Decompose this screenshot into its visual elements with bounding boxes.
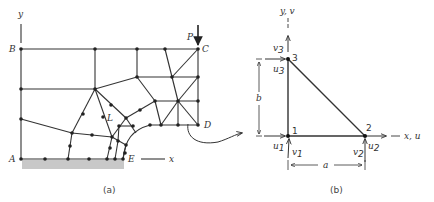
label-y-v-axis: y, v <box>279 6 295 16</box>
label-node-3: 3 <box>292 53 298 63</box>
label-dim-b: b <box>256 93 262 103</box>
label-u2: u2 <box>368 141 380 153</box>
label-x-u-axis: x, u <box>404 131 421 141</box>
label-node-1: 1 <box>292 126 298 136</box>
label-u1: u1 <box>273 141 285 153</box>
zoom-pointer-arrow-icon <box>188 124 242 143</box>
label-v2: v2 <box>353 147 364 159</box>
label-x-axis-a: x <box>169 154 174 164</box>
caption-b: (b) <box>330 185 343 195</box>
label-P: P <box>186 32 194 42</box>
caption-a: (a) <box>103 185 116 195</box>
label-A: A <box>8 154 16 164</box>
label-v1: v1 <box>292 147 303 159</box>
label-y-axis-a: y <box>17 9 24 19</box>
fixed-support <box>22 160 124 169</box>
label-C: C <box>202 44 209 54</box>
label-node-2: 2 <box>366 123 372 133</box>
label-L: L <box>106 113 113 123</box>
label-dim-a: a <box>323 160 328 170</box>
label-E: E <box>127 154 135 164</box>
figure-a-nodes <box>19 47 200 161</box>
figure-canvas: y B C P A E x D L (a) y, <box>0 0 434 202</box>
label-D: D <box>203 120 211 130</box>
boundary-left-bottom <box>21 49 123 159</box>
label-u3: u3 <box>273 64 285 76</box>
label-v3: v3 <box>273 43 284 55</box>
label-B: B <box>8 44 16 54</box>
